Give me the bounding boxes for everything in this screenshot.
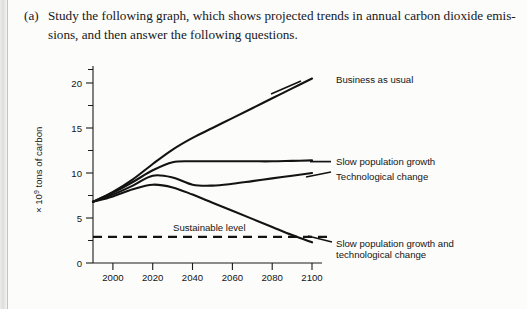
y-tick-label-20: 20	[71, 78, 82, 89]
x-tick-label-2000: 2000	[102, 272, 123, 283]
y-axis-title: × 109 tons of carbon	[33, 127, 44, 213]
annotation-slow-population-growth: Slow population growth	[336, 156, 435, 167]
y-axis-major-ticks	[86, 83, 93, 263]
scan-edge-shadow	[0, 0, 7, 309]
chart-svg: 0 5 10 15 20 × 109 tons of carbon 2000 2…	[18, 58, 518, 284]
question-text-line-2: sions, and then answer the following que…	[48, 25, 516, 44]
x-tick-label-2040: 2040	[182, 272, 203, 283]
annotation-technological-change: Technological change	[336, 171, 428, 182]
x-tick-label-2100: 2100	[301, 272, 322, 283]
annotation-sustainable-level: Sustainable level	[173, 222, 246, 233]
series-line-slow-pop-and-tech	[93, 185, 312, 243]
series-line-business-as-usual	[93, 79, 312, 202]
y-tick-label-0: 0	[77, 258, 82, 269]
y-tick-label-15: 15	[71, 123, 82, 134]
annotation-slow-pop-and-tech-line2: technological change	[336, 249, 426, 260]
next-question-partial	[60, 296, 480, 307]
x-tick-label-2020: 2020	[142, 272, 163, 283]
emissions-line-chart: 0 5 10 15 20 × 109 tons of carbon 2000 2…	[18, 58, 518, 284]
y-tick-label-5: 5	[77, 213, 82, 224]
question-label: (a)	[24, 6, 39, 25]
scan-edge-rule	[7, 0, 8, 309]
annotation-slow-pop-and-tech-line1: Slow population growth and	[336, 238, 454, 249]
annotation-business-as-usual: Business as usual	[336, 74, 413, 85]
y-tick-label-10: 10	[71, 168, 82, 179]
x-tick-label-2060: 2060	[222, 272, 243, 283]
question-text-line-1: Study the following graph, which shows p…	[48, 6, 516, 25]
x-axis-ticks	[113, 263, 312, 270]
series-line-slow-population-growth	[93, 160, 312, 201]
y-axis-minor-ticks	[88, 70, 93, 241]
page-canvas: (a) Study the following graph, which sho…	[0, 0, 527, 309]
question-block: (a) Study the following graph, which sho…	[24, 6, 516, 44]
x-tick-label-2080: 2080	[262, 272, 283, 283]
